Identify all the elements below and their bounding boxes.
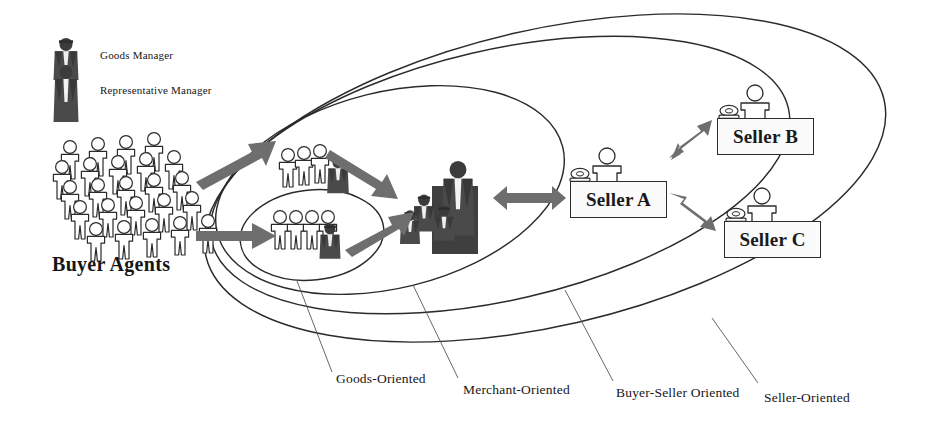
upper-agent-group [279,145,348,194]
leader-seller-oriented [712,318,758,383]
seller-a-box[interactable]: Seller A [570,181,667,218]
diagram-graphics [0,0,945,438]
scope-label-merchant-oriented: Merchant-Oriented [463,382,570,398]
seller-c-phone [726,208,746,221]
arrow-lower-to-cluster [345,212,414,257]
seller-b-phone [719,105,739,118]
arrow-seller-a-seller-c [669,193,716,231]
seller-b-clerk [741,85,769,121]
ellipse-buyer-seller-oriented [183,0,816,363]
scope-label-buyer-seller-oriented: Buyer-Seller Oriented [616,385,740,401]
leader-merchant-oriented [413,285,458,378]
legend-icons [54,38,79,122]
arrow-cluster-seller-a [493,186,566,210]
lower-agent-group [271,211,340,259]
scope-label-seller-oriented: Seller-Oriented [764,390,850,406]
arrow-seller-a-seller-b [669,120,712,160]
legend-label-representative-manager: Representative Manager [100,84,212,96]
legend-label-goods-manager: Goods Manager [100,49,173,61]
diagram-canvas: Goods Manager Representative Manager Buy… [0,0,945,438]
buyer-agents-label: Buyer Agents [52,253,170,276]
arrow-buyers-to-upper [196,141,276,190]
seller-c-box[interactable]: Seller C [724,221,821,258]
seller-a-label: Seller A [586,189,651,211]
central-manager-cluster [400,161,478,254]
leader-buyer-seller-oriented [565,290,613,381]
seller-b-box[interactable]: Seller B [717,118,814,155]
scope-label-goods-oriented: Goods-Oriented [336,371,426,387]
seller-c-label: Seller C [739,229,805,251]
buyer-agents-crowd [53,133,216,261]
seller-a-clerk [593,148,621,184]
seller-c-clerk [748,188,776,224]
seller-a-phone [570,168,590,181]
seller-b-label: Seller B [733,126,798,148]
